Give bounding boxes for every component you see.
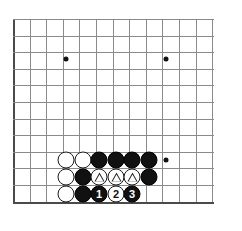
white-stone[interactable] [58,186,75,203]
grid-line-horizontal [13,119,214,120]
grid-line-horizontal [13,102,214,103]
black-stone[interactable] [91,152,108,169]
black-stone[interactable] [108,152,125,169]
move-number-label: 1 [96,189,102,200]
triangle-icon [111,173,121,182]
grid-line-horizontal [13,52,214,53]
marked-stone-triangle[interactable] [108,169,125,186]
grid-line-horizontal [13,19,214,20]
star-point [164,57,169,62]
grid-line-vertical [179,19,180,204]
white-stone[interactable] [58,169,75,186]
black-stone[interactable] [141,169,158,186]
grid-line-horizontal [13,69,214,70]
white-stone[interactable] [75,152,92,169]
grid-line-horizontal [13,36,214,37]
star-point [164,158,169,163]
move-stone-1[interactable]: 1 [91,186,108,203]
white-stone[interactable] [58,152,75,169]
star-point [64,57,69,62]
triangle-icon [127,173,137,182]
grid-line-vertical [212,19,213,204]
black-stone[interactable] [75,169,92,186]
triangle-icon [94,173,104,182]
marked-stone-triangle[interactable] [124,169,141,186]
move-stone-3[interactable]: 3 [124,186,141,203]
black-stone[interactable] [124,152,141,169]
marked-stone-triangle[interactable] [91,169,108,186]
grid-line-vertical [162,19,163,204]
grid-line-vertical [30,19,31,204]
grid-line-vertical [46,19,47,204]
grid-line-vertical [196,19,197,204]
grid-line-horizontal [13,85,214,86]
grid-line-horizontal [13,135,214,136]
black-stone[interactable] [141,152,158,169]
go-board[interactable]: 123 [0,0,242,231]
move-stone-2[interactable]: 2 [108,186,125,203]
move-number-label: 3 [129,189,135,200]
board-border-left [13,19,15,204]
black-stone[interactable] [75,186,92,203]
move-number-label: 2 [113,189,119,200]
